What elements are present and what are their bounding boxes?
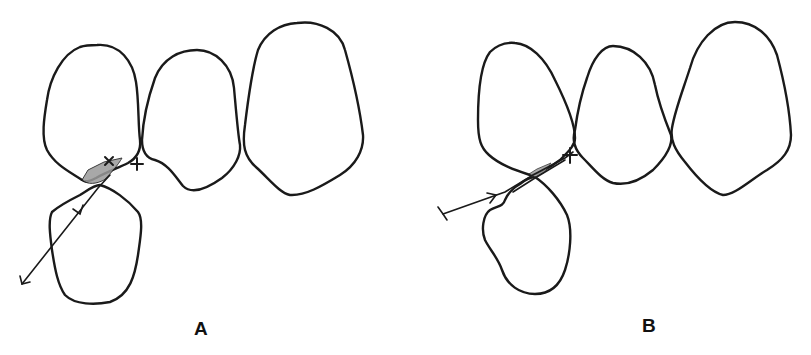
cell-middle xyxy=(574,46,671,184)
panel-a: A xyxy=(0,0,405,355)
panel-label-b: B xyxy=(642,315,656,337)
cell-bottom xyxy=(50,185,141,304)
arrowhead-icon xyxy=(73,205,83,214)
panel-label-a: A xyxy=(194,318,208,340)
ray-path-b-parallel xyxy=(513,160,565,192)
cell-middle xyxy=(142,50,240,190)
cell-diagram-b xyxy=(405,0,811,355)
ray-path-a xyxy=(22,175,110,284)
cell-right xyxy=(672,22,791,195)
ray-path-b xyxy=(443,152,573,214)
panel-b: B xyxy=(405,0,811,355)
cell-top-left xyxy=(44,45,141,182)
cell-diagram-a xyxy=(0,0,405,355)
shaded-contact-region xyxy=(82,158,122,183)
cell-top-left xyxy=(478,43,575,175)
cell-right xyxy=(244,22,363,195)
